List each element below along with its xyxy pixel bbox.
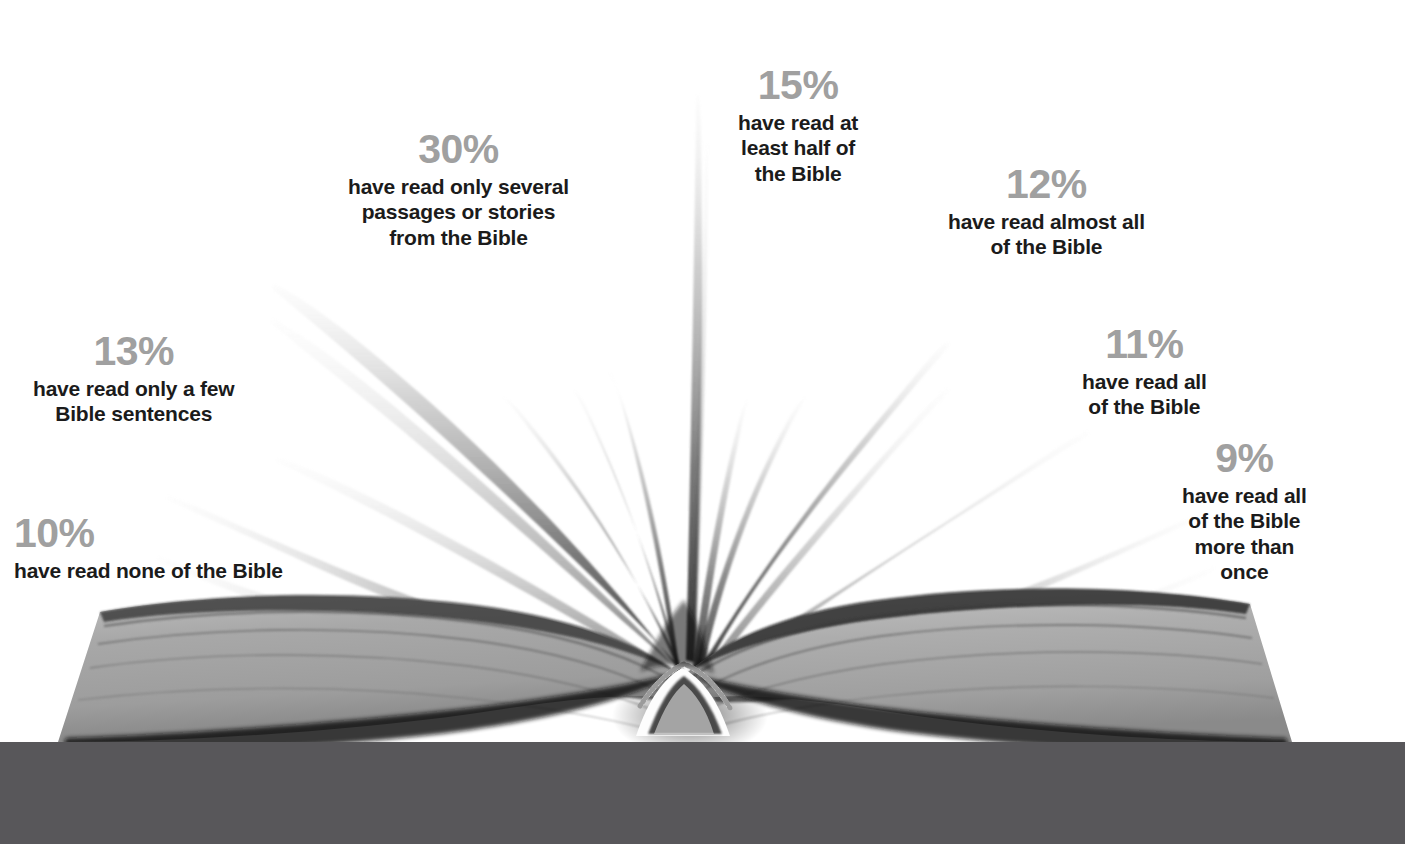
centre-page-blade bbox=[686, 93, 708, 662]
stat-read-almost-all: 12% have read almost all of the Bible bbox=[948, 163, 1145, 260]
stat-read-none: 10% have read none of the Bible bbox=[14, 512, 283, 583]
stat-percent: 30% bbox=[348, 128, 569, 171]
stat-percent: 9% bbox=[1182, 437, 1307, 480]
stat-caption: have read almost all of the Bible bbox=[948, 209, 1145, 260]
stat-caption: have read only several passages or stori… bbox=[348, 174, 569, 251]
stat-caption: have read all of the Bible bbox=[1082, 369, 1207, 420]
stat-percent: 12% bbox=[948, 163, 1145, 206]
surface-bar bbox=[0, 742, 1405, 844]
stat-read-few-sentences: 13% have read only a few Bible sentences bbox=[33, 330, 234, 427]
infographic-canvas: 10% have read none of the Bible 13% have… bbox=[0, 0, 1405, 844]
stat-read-all: 11% have read all of the Bible bbox=[1082, 323, 1207, 420]
stat-read-all-more-than-once: 9% have read all of the Bible more than … bbox=[1182, 437, 1307, 585]
stat-caption: have read at least half of the Bible bbox=[738, 110, 858, 187]
stat-caption: have read all of the Bible more than onc… bbox=[1182, 483, 1307, 585]
right-page-block bbox=[686, 588, 1292, 751]
stat-caption: have read none of the Bible bbox=[14, 558, 283, 584]
stat-caption: have read only a few Bible sentences bbox=[33, 376, 234, 427]
stat-read-several-passages: 30% have read only several passages or s… bbox=[348, 128, 569, 250]
stat-percent: 15% bbox=[738, 64, 858, 107]
stat-percent: 11% bbox=[1082, 323, 1207, 366]
stat-percent: 10% bbox=[14, 512, 283, 555]
stat-read-at-least-half: 15% have read at least half of the Bible bbox=[738, 64, 858, 186]
stat-percent: 13% bbox=[33, 330, 234, 373]
